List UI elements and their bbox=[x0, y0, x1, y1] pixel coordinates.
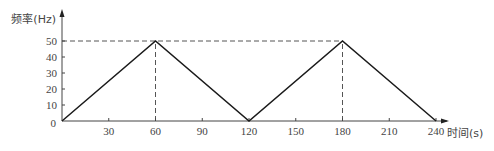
x-tick-label: 240 bbox=[428, 125, 445, 137]
series-line-frequency bbox=[62, 41, 436, 121]
y-tick-label: 50 bbox=[46, 35, 58, 47]
x-axis-label: 时间(s) bbox=[447, 127, 483, 140]
y-tick-label: 20 bbox=[46, 83, 58, 95]
data-series bbox=[62, 41, 436, 121]
y-axis-arrow-icon bbox=[60, 9, 65, 17]
x-tick-label: 90 bbox=[197, 125, 209, 137]
y-axis-label: 频率(Hz) bbox=[11, 12, 56, 26]
y-tick-label: 10 bbox=[46, 99, 58, 111]
y-tick-label: 30 bbox=[46, 67, 58, 79]
y-tick-label: 40 bbox=[46, 51, 58, 63]
x-tick-label: 30 bbox=[103, 125, 115, 137]
frequency-time-chart: 30609012015018021024001020304050 频率(Hz) … bbox=[0, 0, 494, 151]
x-axis-arrow-icon bbox=[441, 119, 449, 124]
x-tick-label: 120 bbox=[241, 125, 258, 137]
x-tick-label: 180 bbox=[334, 125, 351, 137]
x-tick-label: 210 bbox=[381, 125, 398, 137]
y-tick-label: 0 bbox=[51, 117, 57, 129]
axes bbox=[60, 9, 450, 124]
x-tick-label: 60 bbox=[150, 125, 162, 137]
ticks: 30609012015018021024001020304050 bbox=[46, 35, 445, 137]
x-tick-label: 150 bbox=[288, 125, 305, 137]
